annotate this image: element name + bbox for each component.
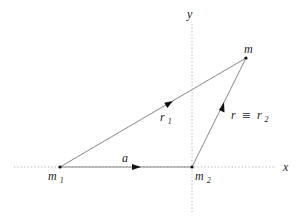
vector-r1-label-subscript: 1 [168, 117, 172, 126]
x-axis-label: x [282, 160, 289, 174]
vector-r2-label-right: r [257, 108, 262, 122]
vector-r1-label: r 1 [160, 110, 172, 126]
vector-a-label: a [122, 151, 128, 165]
vector-r2-equiv-symbol: ≡ [242, 109, 251, 122]
two-body-vector-diagram: x y a r 1 r ≡ r 2 m 1 m 2 m [0, 0, 302, 218]
point-m2-dot [190, 165, 193, 168]
vector-r1-label-main: r [160, 110, 165, 124]
point-m2-label-main: m [195, 169, 204, 183]
point-m1-label: m 1 [48, 169, 64, 185]
point-m1-label-main: m [48, 169, 57, 183]
y-axis-label: y [186, 7, 193, 21]
vector-a-arrowhead-icon [132, 164, 141, 170]
vector-r1-arrowhead-icon [164, 101, 173, 108]
point-m-dot [244, 56, 247, 59]
vector-r2-label-left: r [231, 108, 236, 122]
vector-r1-line [60, 58, 246, 167]
vector-r2-label: r ≡ r 2 [231, 108, 269, 124]
point-m1-label-subscript: 1 [60, 176, 64, 185]
point-m-label: m [244, 42, 253, 56]
point-m2-label-subscript: 2 [207, 176, 211, 185]
vector-r2-label-subscript: 2 [265, 115, 269, 124]
point-m2-label: m 2 [195, 169, 211, 185]
